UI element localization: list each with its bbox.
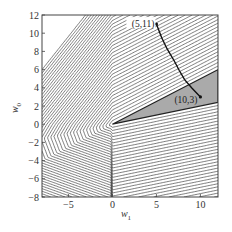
x-tick-label: −5 — [63, 199, 74, 210]
y-tick-label: 0 — [34, 119, 39, 130]
contour-line-40 — [42, 15, 86, 70]
contour-line-35 — [42, 15, 100, 197]
feasible-region-polygon — [112, 70, 218, 125]
y-tick-label: 8 — [34, 46, 39, 57]
y-tick-label: −2 — [28, 137, 39, 148]
annotation-start: (5,11) — [132, 19, 155, 30]
contour-line-39 — [42, 15, 88, 73]
y-axis-label: w0 — [9, 102, 23, 113]
annotation-end: (10,3) — [174, 95, 197, 106]
y-tick-label: 6 — [34, 64, 39, 75]
x-axis-label: w1 — [121, 208, 132, 222]
feasible-region — [112, 70, 218, 125]
x-tick-label: 0 — [110, 199, 115, 210]
y-tick-label: 10 — [29, 28, 39, 39]
end-point — [199, 95, 202, 98]
y-tick-label: −4 — [28, 155, 39, 166]
x-tick-label: 10 — [195, 199, 205, 210]
contour-chart: −50510 −8−6−4−2024681012 w1 w0 (5,11)(10… — [0, 0, 232, 232]
x-tick-label: 5 — [154, 199, 159, 210]
y-tick-label: −6 — [28, 173, 39, 184]
y-tick-label: 2 — [34, 101, 39, 112]
y-tick-label: 12 — [29, 10, 39, 21]
y-tick-label: 4 — [34, 82, 39, 93]
y-tick-label: −8 — [28, 192, 39, 203]
